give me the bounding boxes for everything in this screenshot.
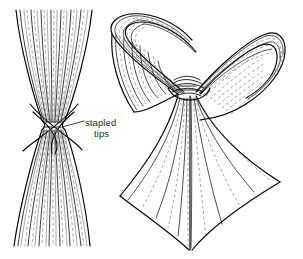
figure-canvas: stapled tips (0, 0, 303, 259)
stapled-tips-label-line-2: tips (94, 128, 109, 139)
stapled-tips-label-line-1: stapled (85, 117, 116, 128)
line-drawing (0, 0, 303, 259)
